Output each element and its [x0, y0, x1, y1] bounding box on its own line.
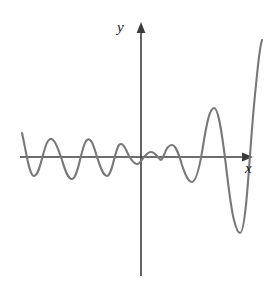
- x-axis-label: x: [245, 161, 252, 176]
- graph-plot-area: [0, 0, 266, 291]
- figure-container: y x: [0, 0, 266, 291]
- y-axis-arrowhead: [137, 22, 146, 33]
- y-axis-label: y: [117, 20, 124, 35]
- function-curve: [22, 40, 262, 233]
